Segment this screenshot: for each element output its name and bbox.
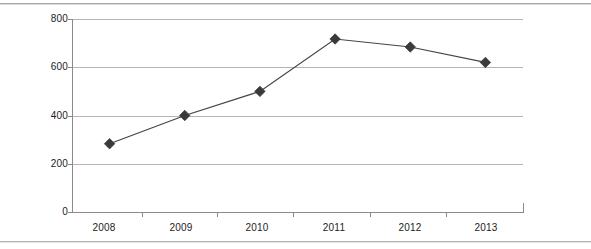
y-tick-mark-400 xyxy=(68,116,72,117)
x-tick-label-2012: 2012 xyxy=(380,222,440,233)
x-tick-label-2010: 2010 xyxy=(227,222,287,233)
y-tick-label-800: 800 xyxy=(28,14,68,24)
x-axis-right-end-cap xyxy=(523,203,524,213)
x-tick-label-2009: 2009 xyxy=(151,222,211,233)
gridline-200 xyxy=(72,164,523,165)
x-tick-label-2011: 2011 xyxy=(304,222,364,233)
y-tick-label-600: 600 xyxy=(28,62,68,72)
y-tick-mark-800 xyxy=(68,19,72,20)
y-axis-line xyxy=(72,19,73,213)
gridline-400 xyxy=(72,116,523,117)
y-tick-label-800-wrap: 800 xyxy=(22,14,68,24)
plot-area xyxy=(72,19,523,212)
x-tick-mark-2 xyxy=(217,212,218,217)
gridline-600 xyxy=(72,67,523,68)
x-tick-label-2013: 2013 xyxy=(456,222,516,233)
y-tick-label-600-wrap: 600 xyxy=(22,62,68,72)
y-tick-label-200: 200 xyxy=(28,159,68,169)
gridline-800 xyxy=(72,19,523,20)
x-tick-mark-3 xyxy=(293,212,294,217)
y-tick-label-0: 0 xyxy=(28,207,68,217)
y-tick-mark-0 xyxy=(68,212,72,213)
y-tick-label-0-wrap: 0 xyxy=(22,207,68,217)
x-tick-label-2008: 2008 xyxy=(74,222,134,233)
x-tick-mark-5 xyxy=(446,212,447,217)
x-tick-mark-1 xyxy=(142,212,143,217)
line-chart: 800 600 400 200 0 2008 2009 2010 2011 20… xyxy=(0,0,591,249)
y-tick-label-400: 400 xyxy=(28,111,68,121)
screenshot-root: 800 600 400 200 0 2008 2009 2010 2011 20… xyxy=(0,0,591,249)
x-tick-mark-4 xyxy=(370,212,371,217)
y-tick-mark-200 xyxy=(68,164,72,165)
y-tick-label-400-wrap: 400 xyxy=(22,111,68,121)
y-tick-mark-600 xyxy=(68,67,72,68)
y-tick-label-200-wrap: 200 xyxy=(22,159,68,169)
x-axis-line xyxy=(72,212,524,213)
